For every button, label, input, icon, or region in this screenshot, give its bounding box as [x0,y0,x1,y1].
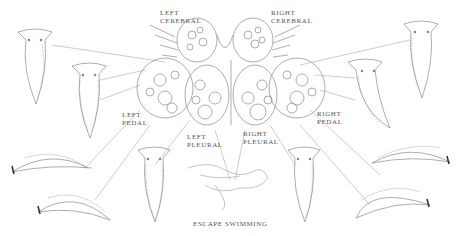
label-line: PLEURAL [187,141,223,149]
right-pleural-ganglion [233,65,277,125]
slug-lateral-lower-right [356,188,430,218]
label-line: PLEURAL [243,138,279,146]
slug-lateral-upper-left [12,154,92,174]
label-line: PEDAL [317,118,343,126]
label-line: CEREBRAL [160,17,201,25]
label-escape-swimming: ESCAPE SWIMMING [193,220,268,228]
slug-lateral-upper-right [372,146,450,164]
right-pedal-ganglion [269,58,325,118]
slug-dorsal-bottom-right [288,147,320,222]
label-line: RIGHT [271,9,312,17]
label-right-cerebral: RIGHT CEREBRAL [271,9,312,25]
slug-dorsal-bottom-left [138,147,170,222]
label-line: PEDAL [122,119,148,127]
slug-dorsal-mid-right [348,59,390,128]
label-left-pedal: LEFT PEDAL [122,111,148,127]
label-line: RIGHT [317,110,343,118]
label-right-pleural: RIGHT PLEURAL [243,130,279,146]
slug-lateral-lower-left [38,195,110,220]
slug-dorsal-top-right [404,21,438,98]
label-line: LEFT [122,111,148,119]
label-left-cerebral: LEFT CEREBRAL [160,9,201,25]
slug-dorsal-top-left [18,29,52,104]
label-left-pleural: LEFT PLEURAL [187,133,223,149]
label-line: LEFT [187,133,223,141]
left-pleural-ganglion [185,65,229,125]
label-line: LEFT [160,9,201,17]
label-line: CEREBRAL [271,17,312,25]
escape-swimming-sketch [188,164,268,210]
figure-canvas: LEFT CEREBRAL RIGHT CEREBRAL LEFT PEDAL … [0,0,463,236]
left-pedal-ganglion [137,58,193,118]
figure-drawing [0,0,463,236]
label-right-pedal: RIGHT PEDAL [317,110,343,126]
slug-dorsal-mid-left [72,63,106,138]
cerebral-commissure [217,35,233,48]
label-line: RIGHT [243,130,279,138]
